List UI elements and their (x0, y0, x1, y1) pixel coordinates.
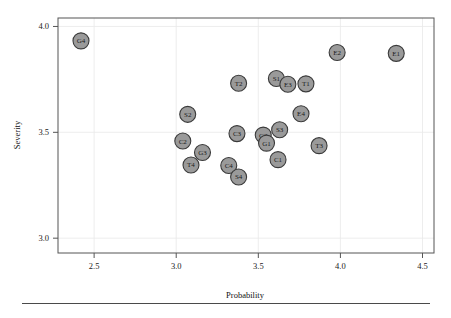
data-points-group: G4E2E1S1E3T1T2S2E4C3S3G2G1C2T3G3C1T4C4S4 (73, 33, 404, 185)
x-tick-label: 4.5 (417, 261, 428, 271)
y-axis-ticks: 3.03.54.0 (38, 21, 58, 243)
data-point-label: T1 (302, 80, 310, 88)
data-point-c3[interactable]: C3 (229, 126, 245, 142)
x-axis-title: Probability (226, 290, 265, 300)
probability-severity-scatter-chart: 2.53.03.54.04.5 3.03.54.0 G4E2E1S1E3T1T2… (0, 0, 451, 318)
data-point-label: G3 (198, 149, 207, 157)
x-tick-label: 4.0 (335, 261, 346, 271)
data-point-c1[interactable]: C1 (270, 152, 286, 168)
data-point-label: S2 (184, 111, 192, 119)
data-point-label: E1 (392, 50, 400, 58)
data-point-label: T2 (235, 80, 243, 88)
data-point-label: G4 (77, 37, 86, 45)
data-point-label: S3 (276, 126, 284, 134)
plot-frame (58, 18, 434, 253)
data-point-t1[interactable]: T1 (298, 76, 314, 92)
gridlines-group (58, 18, 434, 253)
data-point-s3[interactable]: S3 (272, 122, 288, 138)
data-point-e3[interactable]: E3 (280, 76, 296, 92)
data-point-g4[interactable]: G4 (73, 33, 89, 49)
data-point-t3[interactable]: T3 (311, 138, 327, 154)
data-point-label: G1 (262, 140, 271, 148)
data-point-s4[interactable]: S4 (231, 169, 247, 185)
y-tick-label: 3.5 (38, 127, 49, 137)
data-point-label: C4 (225, 162, 234, 170)
data-point-label: C1 (274, 156, 283, 164)
data-point-label: S1 (273, 75, 281, 83)
data-point-label: E2 (333, 49, 341, 57)
x-tick-label: 3.0 (171, 261, 182, 271)
x-axis-ticks: 2.53.03.54.04.5 (89, 253, 428, 271)
data-point-label: T3 (315, 142, 323, 150)
data-point-label: S4 (235, 173, 243, 181)
x-tick-label: 2.5 (89, 261, 100, 271)
data-point-label: E3 (284, 81, 292, 89)
y-tick-label: 3.0 (38, 233, 49, 243)
data-point-label: C3 (233, 130, 242, 138)
y-axis-title: Severity (12, 120, 22, 149)
data-point-g3[interactable]: G3 (194, 144, 210, 160)
data-point-s2[interactable]: S2 (180, 106, 196, 122)
data-point-t4[interactable]: T4 (183, 157, 199, 173)
y-tick-label: 4.0 (38, 21, 49, 31)
x-tick-label: 3.5 (253, 261, 264, 271)
data-point-e1[interactable]: E1 (388, 45, 404, 61)
data-point-label: E4 (297, 110, 305, 118)
data-point-label: C2 (179, 138, 188, 146)
data-point-e2[interactable]: E2 (329, 45, 345, 61)
data-point-g1[interactable]: G1 (259, 135, 275, 151)
data-point-t2[interactable]: T2 (231, 75, 247, 91)
data-point-label: T4 (187, 161, 195, 169)
data-point-c2[interactable]: C2 (175, 133, 191, 149)
footer-divider (22, 303, 430, 304)
data-point-e4[interactable]: E4 (293, 106, 309, 122)
scatter-plot-figure: 2.53.03.54.04.5 3.03.54.0 G4E2E1S1E3T1T2… (0, 0, 451, 318)
